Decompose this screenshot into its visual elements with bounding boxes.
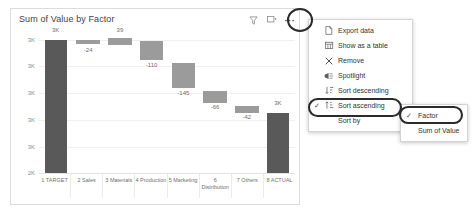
submenu-item-sum-of-value[interactable]: Sum of Value xyxy=(401,123,467,138)
menu-item-sort-ascending[interactable]: ✓ Sort ascending xyxy=(309,98,412,113)
bar-total-target[interactable] xyxy=(45,40,67,173)
menu-item-sort-by[interactable]: Sort by › xyxy=(309,113,412,128)
bar-data-label: 3K xyxy=(274,100,281,106)
x-axis-category[interactable]: 2 Sales xyxy=(71,174,103,198)
menu-item-show-as-a-table[interactable]: Show as a table xyxy=(309,38,412,53)
menu-item-export-data[interactable]: Export data xyxy=(309,23,412,38)
bar-data-label: -42 xyxy=(243,114,252,120)
close-icon xyxy=(323,57,335,65)
menu-item-label: Sort by xyxy=(335,117,360,124)
submenu-item-factor[interactable]: ✓ Factor xyxy=(401,108,467,123)
menu-item-spotlight[interactable]: Spotlight xyxy=(309,68,412,83)
x-axis-category[interactable]: 4 Production xyxy=(135,174,167,198)
bar-step-distribution[interactable] xyxy=(203,91,227,103)
sort-descending-icon xyxy=(323,86,335,95)
menu-check: ✓ xyxy=(406,112,415,120)
menu-item-remove[interactable]: Remove xyxy=(309,53,412,68)
y-tick: 3K xyxy=(28,144,35,150)
bar-step-materials[interactable] xyxy=(108,38,132,46)
export-icon xyxy=(323,26,335,35)
waterfall-chart-visual[interactable]: Sum of Value by Factor 3K 3K 3K 3K 3K xyxy=(10,8,300,205)
menu-item-label: Remove xyxy=(335,57,364,64)
bar-data-label: -24 xyxy=(84,47,93,53)
x-axis: 1 TARGET 2 Sales 3 Materials 4 Productio… xyxy=(39,173,295,198)
y-tick: 3K xyxy=(28,90,35,96)
bar-total-actual[interactable] xyxy=(267,113,289,173)
x-axis-category[interactable]: 3 Materials xyxy=(103,174,135,198)
x-axis-category[interactable]: 8 ACTUAL xyxy=(264,174,295,198)
x-axis-category[interactable]: 1 TARGET xyxy=(39,174,71,198)
menu-check: ✓ xyxy=(314,102,323,110)
y-tick: 3K xyxy=(28,117,35,123)
bar-step-sales[interactable] xyxy=(76,40,100,44)
menu-item-label: Sort ascending xyxy=(335,102,385,109)
menu-item-label: Export data xyxy=(335,27,374,34)
context-menu[interactable]: Export data Show as a table Remove xyxy=(308,19,413,132)
table-icon xyxy=(323,41,335,50)
page-title: Sum of Value by Factor xyxy=(19,14,115,24)
visual-header-icons xyxy=(248,15,295,26)
sort-by-submenu[interactable]: ✓ Factor Sum of Value xyxy=(400,104,468,142)
menu-item-label: Sort descending xyxy=(335,87,389,94)
more-options-icon[interactable] xyxy=(284,15,295,26)
focus-mode-icon[interactable] xyxy=(266,15,277,26)
submenu-item-label: Factor xyxy=(415,112,438,119)
bar-data-label: -66 xyxy=(211,104,220,110)
bar-data-label: 3K xyxy=(52,27,59,33)
plot-area: 3K -24 39 -110 -145 -66 -42 3K xyxy=(39,37,295,174)
menu-item-label: Show as a table xyxy=(335,42,388,49)
y-tick: 2K xyxy=(28,170,35,176)
bar-data-label: -145 xyxy=(177,90,189,96)
y-tick: 3K xyxy=(28,37,35,43)
y-tick: 3K xyxy=(28,63,35,69)
submenu-item-label: Sum of Value xyxy=(415,127,460,134)
bar-step-others[interactable] xyxy=(235,106,259,114)
y-axis: 3K 3K 3K 3K 3K 2K xyxy=(11,37,37,174)
bar-step-marketing[interactable] xyxy=(172,63,196,88)
bar-data-label: 39 xyxy=(117,27,124,33)
filter-icon[interactable] xyxy=(248,15,259,26)
x-axis-category[interactable]: 6 Distribution xyxy=(200,174,232,198)
bars-layer: 3K -24 39 -110 -145 -66 -42 3K xyxy=(39,37,295,174)
bar-data-label: -110 xyxy=(146,62,158,68)
sort-ascending-icon xyxy=(323,101,335,110)
bar-step-production[interactable] xyxy=(140,41,164,60)
spotlight-icon xyxy=(323,72,335,80)
x-axis-category[interactable]: 7 Others xyxy=(232,174,264,198)
menu-item-label: Spotlight xyxy=(335,72,365,79)
x-axis-category[interactable]: 5 Marketing xyxy=(168,174,200,198)
menu-item-sort-descending[interactable]: Sort descending xyxy=(309,83,412,98)
